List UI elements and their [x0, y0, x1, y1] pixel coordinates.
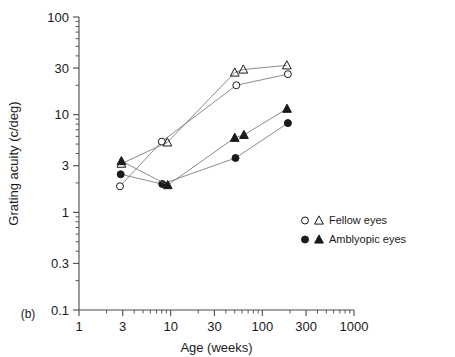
series-filled-triangle — [117, 104, 291, 189]
y-axis-tick-label: 100 — [47, 10, 69, 25]
figure-panel-b: 0.10.31310301001310301003001000 Fellow e… — [0, 0, 455, 357]
x-axis-tick-label: 1 — [75, 319, 82, 334]
y-axis-title: Grating acuity (c/deg) — [6, 101, 21, 225]
legend-entry: Fellow eyes — [302, 214, 388, 226]
data-point-open-circle — [302, 217, 309, 224]
legend-label: Fellow eyes — [329, 214, 388, 226]
data-series-group — [116, 61, 291, 190]
data-point-filled-triangle — [230, 133, 239, 141]
data-point-filled-circle — [302, 236, 309, 243]
data-point-open-triangle — [282, 61, 291, 69]
x-axis-tick-label: 30 — [207, 319, 221, 334]
data-point-filled-triangle — [283, 104, 292, 112]
panel-label: (b) — [21, 307, 36, 321]
y-axis-tick-label: 30 — [55, 61, 69, 76]
data-point-open-circle — [233, 82, 240, 89]
series-connector-line — [121, 123, 288, 184]
y-axis-tick-label: 3 — [62, 158, 69, 173]
x-axis-tick-label: 10 — [163, 319, 177, 334]
chart-legend: Fellow eyesAmblyopic eyes — [302, 214, 407, 245]
y-axis-tick-label: 0.1 — [51, 303, 69, 318]
x-axis-tick-label: 100 — [251, 319, 273, 334]
data-point-filled-triangle — [117, 156, 126, 164]
y-axis-tick-label: 10 — [55, 107, 69, 122]
data-point-filled-circle — [117, 171, 124, 178]
data-point-filled-triangle — [315, 235, 324, 243]
legend-entry: Amblyopic eyes — [302, 233, 407, 245]
y-axis-tick-label: 0.3 — [51, 256, 69, 271]
data-point-filled-circle — [284, 120, 291, 127]
legend-label: Amblyopic eyes — [329, 233, 407, 245]
data-point-open-circle — [284, 71, 291, 78]
series-connector-line — [121, 109, 287, 185]
series-open-triangle — [117, 61, 291, 168]
x-axis-title: Age (weeks) — [180, 340, 252, 355]
y-axis-tick-label: 1 — [62, 205, 69, 220]
data-point-open-triangle — [230, 68, 239, 76]
axis-titles: Age (weeks)Grating acuity (c/deg)(b) — [6, 101, 253, 355]
x-axis-tick-label: 300 — [295, 319, 317, 334]
data-point-filled-circle — [232, 155, 239, 162]
data-point-open-circle — [116, 183, 123, 190]
data-point-open-triangle — [315, 216, 324, 224]
axes: 0.10.31310301001310301003001000 — [47, 10, 368, 335]
grating-acuity-scatter-plot: 0.10.31310301001310301003001000 Fellow e… — [0, 0, 455, 357]
x-axis-tick-label: 3 — [119, 319, 126, 334]
x-axis-tick-label: 1000 — [340, 319, 369, 334]
data-point-filled-triangle — [240, 130, 249, 138]
